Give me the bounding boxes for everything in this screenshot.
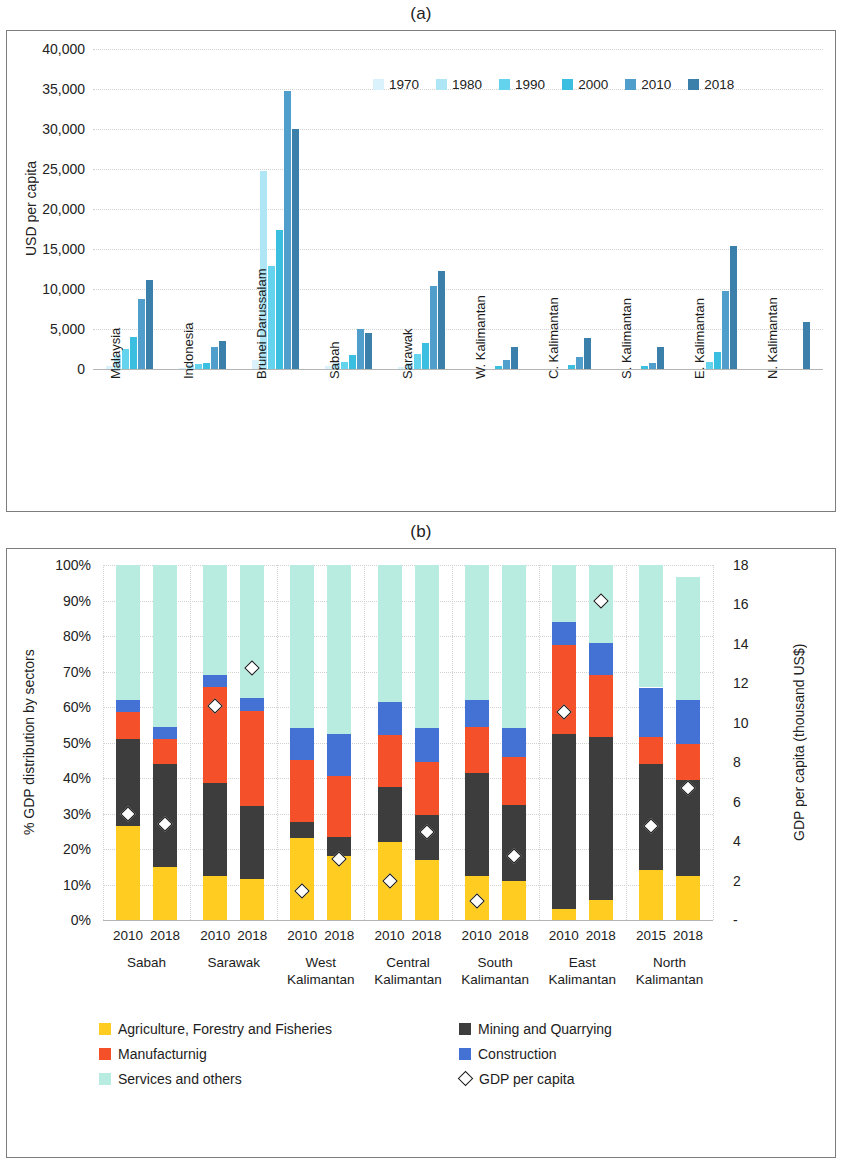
bar-segment [327, 734, 351, 777]
bar-segment [465, 773, 489, 876]
legend-label-a: 1980 [452, 77, 482, 92]
bar-segment [639, 764, 663, 871]
bar-stack [203, 565, 227, 920]
vgridline-b [103, 565, 104, 920]
y-tick-a: 10,000 [23, 281, 85, 297]
y-tick-b-secondary: 6 [733, 794, 763, 810]
y-tick-b: 20% [31, 841, 91, 857]
bar-segment [240, 806, 264, 879]
legend-item-a[interactable]: 2018 [688, 77, 734, 92]
category-label-a: N. Kalimantan [765, 297, 780, 379]
legend-label-b: Mining and Quarrying [478, 1021, 612, 1037]
x-year-label: 2010 [549, 928, 579, 943]
vgridline-b [713, 565, 714, 920]
legend-item-a[interactable]: 2000 [562, 77, 608, 92]
bar-stack [676, 565, 700, 920]
bar-stack [415, 565, 439, 920]
category-label-a: E. Kalimantan [692, 298, 707, 379]
x-year-label: 2015 [636, 928, 666, 943]
y-tick-a: 0 [23, 361, 85, 377]
legend-item-b[interactable]: GDP per capita [459, 1066, 574, 1091]
bar [130, 337, 137, 369]
bar-segment [290, 728, 314, 760]
bar-stack [327, 565, 351, 920]
bar-segment [415, 860, 439, 920]
bar-segment [327, 776, 351, 836]
legend-item-b[interactable]: Construction [459, 1041, 557, 1066]
x-year-label: 2010 [287, 928, 317, 943]
y-tick-b-secondary: 18 [733, 557, 763, 573]
legend-swatch [562, 79, 573, 90]
legend-item-b[interactable]: Agriculture, Forestry and Fisheries [99, 1016, 459, 1041]
bar-segment [639, 565, 663, 687]
legend-item-a[interactable]: 2010 [625, 77, 671, 92]
vgridline-b [277, 565, 278, 920]
legend-item-b[interactable]: Mining and Quarrying [459, 1016, 612, 1041]
bar-segment [116, 826, 140, 920]
bar-segment [415, 762, 439, 815]
bar-group [325, 49, 372, 369]
bar-segment [240, 711, 264, 807]
bar [576, 357, 583, 369]
legend-item-b[interactable]: Services and others [99, 1066, 459, 1091]
bar-segment [465, 565, 489, 700]
y-tick-b-secondary: 2 [733, 873, 763, 889]
panel-b: (b) % GDP distribution by sectorsGDP per… [0, 520, 842, 1162]
y-tick-b: 80% [31, 628, 91, 644]
vgridline-b [452, 565, 453, 920]
bar [211, 347, 218, 369]
y-tick-b: 0% [31, 912, 91, 928]
bar-segment [676, 577, 700, 699]
bar [584, 338, 591, 369]
bar-segment [290, 838, 314, 920]
legend-label-a: 2000 [578, 77, 608, 92]
bar-segment [502, 757, 526, 805]
bar-segment [589, 737, 613, 900]
y-tick-b-secondary: 12 [733, 675, 763, 691]
bar [357, 329, 364, 369]
x-year-label: 2018 [499, 928, 529, 943]
bar-stack [465, 565, 489, 920]
bar-segment [290, 565, 314, 728]
legend-item-a[interactable]: 1990 [499, 77, 545, 92]
gridline-b [103, 565, 713, 566]
bar [730, 246, 737, 369]
legend-label-b: Services and others [118, 1071, 242, 1087]
bar-segment [639, 688, 663, 738]
bar [422, 343, 429, 369]
bar [430, 286, 437, 369]
gridline-b [103, 601, 713, 602]
bar-segment [502, 881, 526, 920]
bar [146, 280, 153, 369]
category-label-a: Brunei Darussalam [254, 268, 269, 379]
legend-row: Services and othersGDP per capita [99, 1066, 612, 1091]
gridline-b [103, 778, 713, 779]
legend-diamond-marker [458, 1071, 474, 1087]
panel-a-caption: (a) [0, 4, 842, 24]
legend-item-b[interactable]: Manufacturnig [99, 1041, 459, 1066]
y-tick-a: 35,000 [23, 81, 85, 97]
y-tick-b: 10% [31, 877, 91, 893]
bar [203, 363, 210, 369]
legend-item-a[interactable]: 1970 [373, 77, 419, 92]
bar-segment [153, 565, 177, 727]
legend-label-b: Manufacturnig [118, 1046, 207, 1062]
x-year-label: 2018 [673, 928, 703, 943]
legend-swatch [459, 1023, 471, 1035]
vgridline-b [190, 565, 191, 920]
bar-segment [415, 728, 439, 762]
x-year-label: 2018 [411, 928, 441, 943]
bar-segment [676, 876, 700, 920]
bar-group [398, 49, 445, 369]
bar-segment [676, 744, 700, 780]
y-tick-b: 30% [31, 806, 91, 822]
chart-a: USD per capita05,00010,00015,00020,00025… [7, 31, 835, 511]
bar-segment [203, 565, 227, 675]
bar [568, 365, 575, 369]
bar-segment [116, 565, 140, 700]
legend-item-a[interactable]: 1980 [436, 77, 482, 92]
bar-stack [116, 565, 140, 920]
y-tick-a: 30,000 [23, 121, 85, 137]
bar-segment [290, 760, 314, 822]
y-tick-b: 100% [31, 557, 91, 573]
